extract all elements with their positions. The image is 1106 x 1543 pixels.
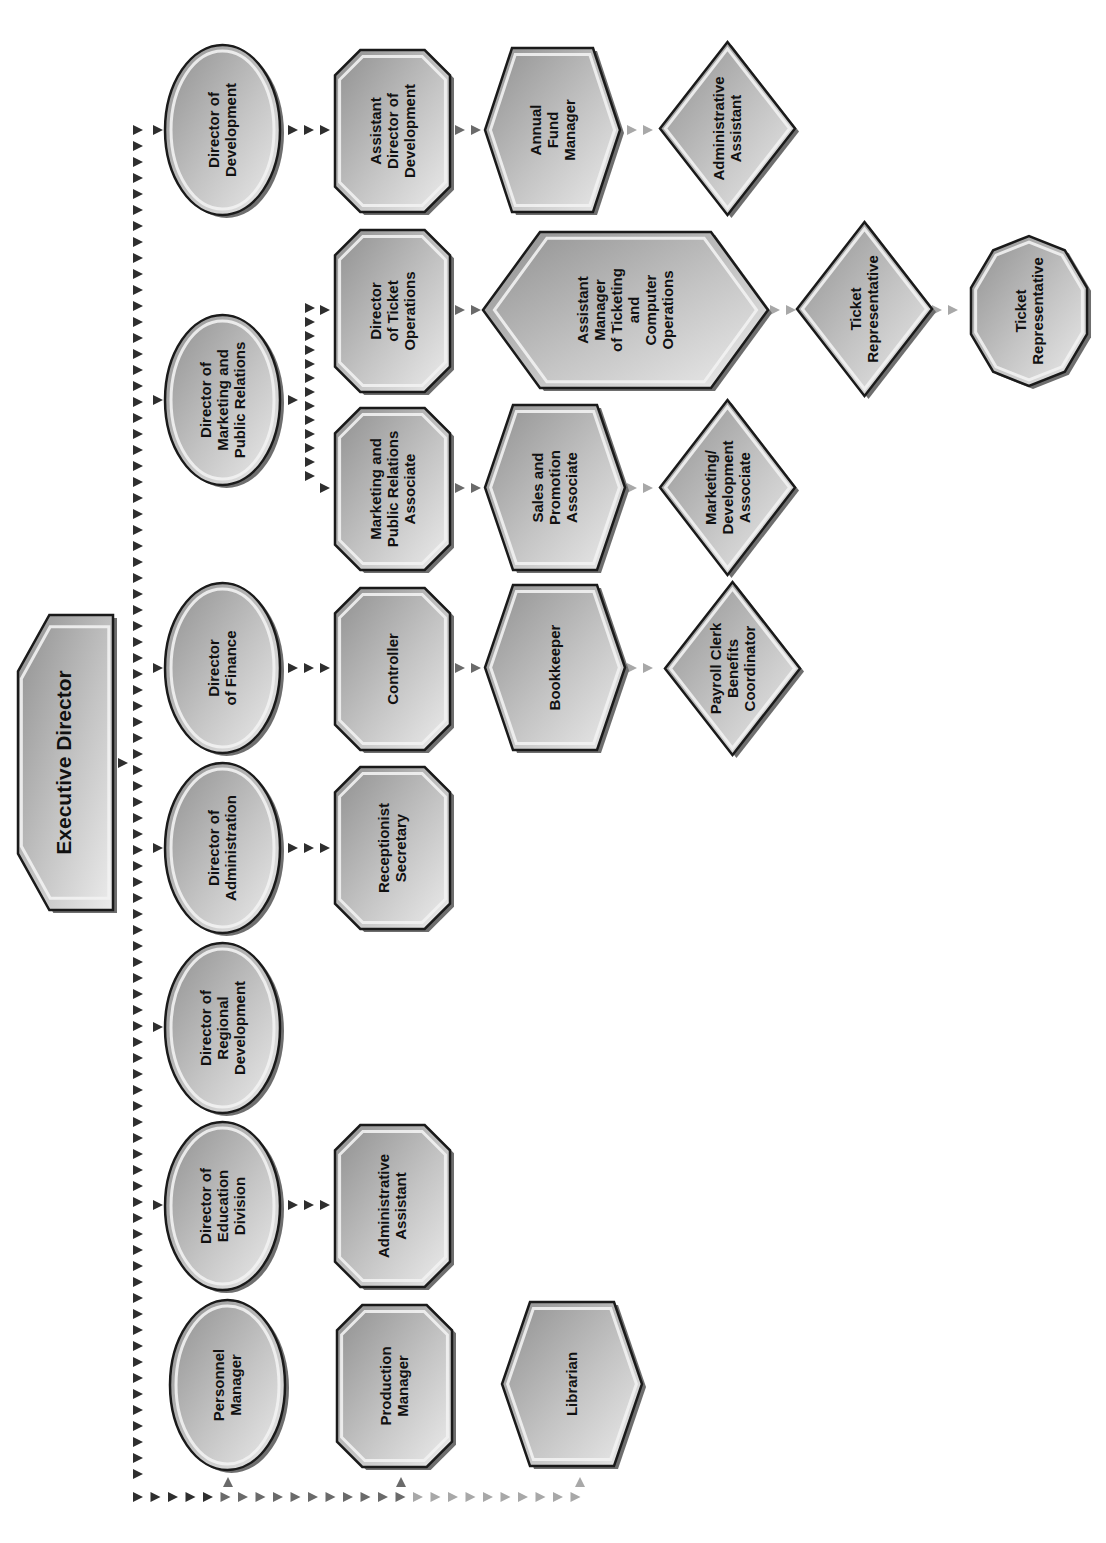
node-label: Executive Director xyxy=(52,670,75,854)
node-sales-promo: Sales andPromotionAssociate xyxy=(485,405,629,573)
node-asst-mgr-ticket: AssistantManagerof TicketingandComputerO… xyxy=(483,232,772,391)
node-ticket-rep-2: TicketRepresentative xyxy=(971,236,1091,389)
node-asst-dir-dev: AssistantDirector ofDevelopment xyxy=(335,50,454,215)
node-label: ReceptionistSecretary xyxy=(375,803,409,893)
node-label: Controller xyxy=(384,633,401,705)
node-bookkeeper: Bookkeeper xyxy=(485,585,629,753)
node-label: Sales andPromotionAssociate xyxy=(529,450,580,525)
node-label: ProductionManager xyxy=(377,1346,411,1425)
node-label: Marketing/DevelopmentAssociate xyxy=(702,440,753,534)
node-dir-fin: Directorof Finance xyxy=(165,583,284,756)
node-label: PersonnelManager xyxy=(210,1349,244,1422)
node-label: Directorof TicketOperations xyxy=(367,271,418,350)
node-controller: Controller xyxy=(335,588,454,753)
node-label: Director ofAdministration xyxy=(205,795,239,901)
node-label: Director ofEducationDivision xyxy=(197,1167,248,1244)
node-dir-ticket: Directorof TicketOperations xyxy=(335,230,454,395)
node-label: Director ofDevelopment xyxy=(205,83,239,177)
node-librarian: Librarian xyxy=(502,1302,646,1469)
node-dir-adm: Director ofAdministration xyxy=(165,763,284,936)
node-admin-asst-dev: AdministrativeAssistant xyxy=(660,42,799,218)
node-payroll: Payroll ClerkBenefitsCoordinator xyxy=(665,582,804,758)
node-production: ProductionManager xyxy=(337,1305,456,1470)
node-label: Directorof Finance xyxy=(205,630,239,705)
node-personnel: PersonnelManager xyxy=(170,1300,289,1473)
nodes: Executive DirectorDirector ofDevelopment… xyxy=(18,42,1091,1473)
node-label: Bookkeeper xyxy=(546,624,563,710)
node-receptionist: ReceptionistSecretary xyxy=(335,767,454,932)
node-label: AssistantDirector ofDevelopment xyxy=(367,84,418,178)
node-annual-fund: AnnualFundManager xyxy=(485,48,624,215)
org-chart: Executive DirectorDirector ofDevelopment… xyxy=(0,0,1106,1543)
node-dir-dev: Director ofDevelopment xyxy=(165,45,284,218)
node-mpr-assoc: Marketing andPublic RelationsAssociate xyxy=(335,408,454,573)
node-ticket-rep-1: TicketRepresentative xyxy=(797,222,936,399)
node-admin-asst-edu: AdministrativeAssistant xyxy=(335,1125,454,1290)
node-dir-reg: Director ofRegionalDevelopment xyxy=(165,943,284,1116)
node-mkt-dev-assoc: Marketing/DevelopmentAssociate xyxy=(660,400,799,578)
node-dir-edu: Director ofEducationDivision xyxy=(165,1122,284,1293)
node-exec: Executive Director xyxy=(18,615,117,913)
node-label: Librarian xyxy=(563,1352,580,1416)
node-dir-mpr: Director ofMarketing andPublic Relations xyxy=(165,315,284,488)
